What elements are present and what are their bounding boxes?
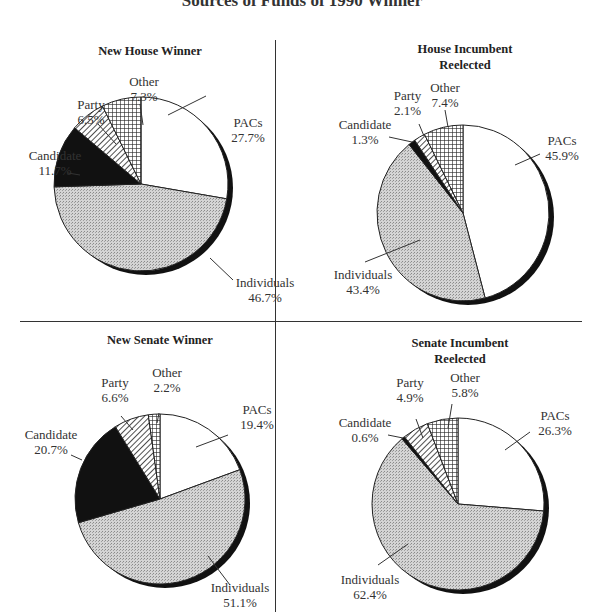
label-other: Other2.2% xyxy=(142,365,192,395)
panel-title-line2: Reelected xyxy=(375,57,555,73)
label-pacs: PACs19.4% xyxy=(232,402,282,432)
label-other: Other7.3% xyxy=(114,74,174,104)
slice-pacs xyxy=(141,97,228,199)
label-individuals: Individuals46.7% xyxy=(230,275,300,305)
label-pacs: PACs45.9% xyxy=(537,133,587,163)
panel-title-line1: House Incumbent xyxy=(375,41,555,57)
label-party: Party2.1% xyxy=(385,88,430,118)
label-party: Party6.5% xyxy=(66,97,116,127)
panel-title-house-incumbent: House Incumbent Reelected xyxy=(375,41,555,73)
label-individuals: Individuals62.4% xyxy=(335,572,405,602)
label-candidate: Candidate20.7% xyxy=(16,427,86,457)
pie-charts-canvas xyxy=(0,0,604,612)
pie-house-incumbent-reelected xyxy=(377,125,554,305)
label-individuals: Individuals51.1% xyxy=(205,580,275,610)
panel-title-senate-incumbent: Senate Incumbent Reelected xyxy=(370,335,550,367)
label-individuals: Individuals43.4% xyxy=(328,267,398,297)
label-candidate: Candidate1.3% xyxy=(330,117,400,147)
panel-title-line2: Reelected xyxy=(370,351,550,367)
horizontal-divider xyxy=(20,321,582,322)
panel-title-new-house-winner: New House Winner xyxy=(60,43,240,59)
label-pacs: PACs26.3% xyxy=(530,408,580,438)
panel-title-line1: Senate Incumbent xyxy=(370,335,550,351)
panel-title-new-senate-winner: New Senate Winner xyxy=(70,332,250,348)
label-party: Party6.6% xyxy=(90,375,140,405)
label-other: Other5.8% xyxy=(440,370,490,400)
pie-new-senate-winner xyxy=(75,414,250,588)
label-pacs: PACs27.7% xyxy=(218,115,278,145)
label-party: Party4.9% xyxy=(385,375,435,405)
slice-individuals xyxy=(54,184,227,271)
label-candidate: Candidate0.6% xyxy=(330,415,400,445)
label-candidate: Candidate11.7% xyxy=(20,148,90,178)
